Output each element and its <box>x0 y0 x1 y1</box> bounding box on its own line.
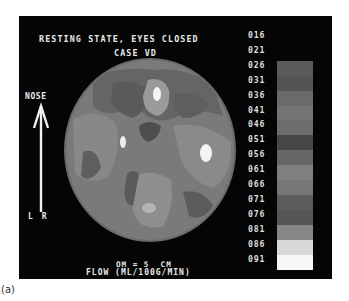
scale-label: 081 <box>248 224 265 234</box>
brain-blood-flow-map <box>63 56 239 242</box>
scale-label: 071 <box>248 194 265 204</box>
scale-label: 021 <box>248 45 265 55</box>
scale-segment-041 <box>277 106 313 121</box>
figure-caption: (a) <box>1 284 15 295</box>
scale-label: 036 <box>248 90 265 100</box>
scale-label: 051 <box>248 134 265 144</box>
scale-label: 086 <box>248 239 265 249</box>
scan-display-frame: RESTING STATE, EYES CLOSED CASE VD NOSE <box>19 16 332 279</box>
scale-segment-061 <box>277 165 313 180</box>
hotspot-left <box>120 136 126 148</box>
scale-segment-066 <box>277 180 313 195</box>
scale-segment-091 <box>277 255 313 270</box>
hotspot-frontal <box>153 87 161 101</box>
hotspot-right <box>200 144 212 162</box>
scale-segment-071 <box>277 195 313 210</box>
scale-label: 031 <box>248 75 265 85</box>
scale-segment-076 <box>277 210 313 225</box>
scale-label: 076 <box>248 209 265 219</box>
left-right-label: L R <box>28 212 46 221</box>
scale-segment-036 <box>277 91 313 106</box>
scale-label: 091 <box>248 254 265 264</box>
scale-label: 066 <box>248 179 265 189</box>
scale-label: 056 <box>248 149 265 159</box>
scale-segment-031 <box>277 76 313 91</box>
scale-segment-046 <box>277 120 313 135</box>
scale-label: 041 <box>248 105 265 115</box>
scan-title: RESTING STATE, EYES CLOSED <box>39 34 199 44</box>
scale-segment-056 <box>277 150 313 165</box>
scale-segment-081 <box>277 225 313 240</box>
scale-segment-086 <box>277 240 313 255</box>
scale-label: 026 <box>248 60 265 70</box>
hotspot-occipital <box>142 203 156 213</box>
up-arrow-icon <box>32 102 50 214</box>
scale-label: 016 <box>248 30 265 40</box>
scale-segment-051 <box>277 135 313 150</box>
scale-segment-026 <box>277 61 313 76</box>
nose-label: NOSE <box>25 92 47 101</box>
scale-label: 046 <box>248 119 265 129</box>
scale-label: 061 <box>248 164 265 174</box>
units-label: FLOW (ML/100G/MIN) <box>86 268 191 277</box>
